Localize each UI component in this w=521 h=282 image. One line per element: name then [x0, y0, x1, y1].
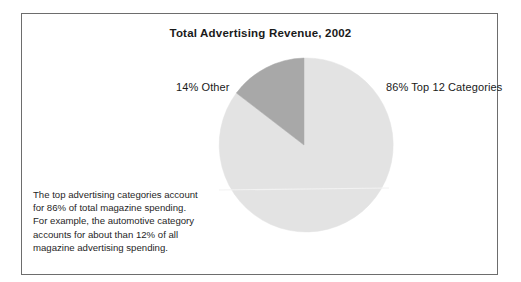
caption-line: accounts for about than 12% of all — [33, 228, 223, 241]
caption-line: for 86% of total magazine spending. — [33, 201, 223, 214]
caption-line: For example, the automotive category — [33, 214, 223, 227]
chart-caption: The top advertising categories account f… — [33, 188, 223, 254]
figure-container: Total Advertising Revenue, 2002 14% Othe… — [0, 0, 521, 282]
pie-label-top-12-categories: 86% Top 12 Categories — [386, 81, 502, 93]
pie-label-other: 14% Other — [176, 81, 229, 93]
caption-line: magazine advertising spending. — [33, 241, 223, 254]
caption-line: The top advertising categories account — [33, 188, 223, 201]
